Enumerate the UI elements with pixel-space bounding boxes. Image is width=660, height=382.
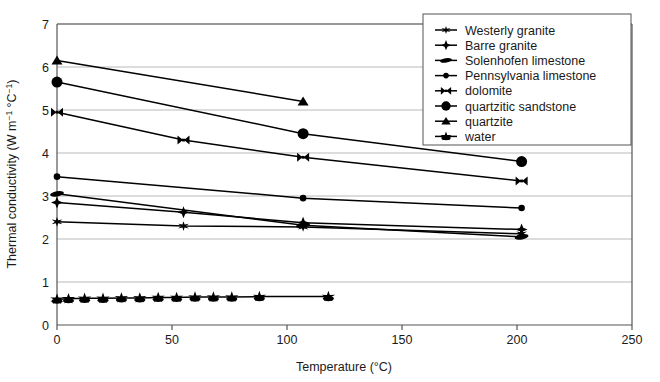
y-axis-title-main: Thermal conductivity (W m bbox=[5, 121, 19, 269]
chart-legend: Westerly graniteBarre graniteSolenhofen … bbox=[423, 14, 631, 145]
y-axis-title-sup-2: −1 bbox=[4, 83, 14, 93]
data-point bbox=[300, 195, 307, 202]
x-axis-title: Temperature (°C) bbox=[296, 360, 392, 374]
data-point bbox=[518, 205, 525, 212]
y-tick-label-0: 0 bbox=[42, 319, 49, 333]
legend-label: quartzitic sandstone bbox=[465, 100, 576, 114]
y-axis-title-mid: °C bbox=[5, 93, 19, 111]
legend-label: Westerly granite bbox=[465, 24, 555, 38]
y-axis-title: Thermal conductivity (W m−1 °C−1) bbox=[4, 79, 19, 268]
legend-marker bbox=[443, 73, 449, 79]
y-tick-label-6: 6 bbox=[42, 61, 49, 75]
x-tick-label-50: 50 bbox=[165, 333, 179, 347]
data-point bbox=[54, 173, 61, 180]
y-tick-label-2: 2 bbox=[42, 233, 49, 247]
legend-label: Solenhofen limestone bbox=[465, 54, 585, 68]
y-tick-label-1: 1 bbox=[42, 276, 49, 290]
y-axis-title-sup-1: −1 bbox=[4, 111, 14, 121]
y-tick-label-3: 3 bbox=[42, 190, 49, 204]
y-tick-label-5: 5 bbox=[42, 104, 49, 118]
thermal-conductivity-line-chart: 01234567 050100150200250 Temperature (°C… bbox=[0, 0, 660, 382]
chart-figure: 01234567 050100150200250 Temperature (°C… bbox=[0, 0, 660, 382]
legend-label: Barre granite bbox=[465, 39, 537, 53]
y-tick-label-4: 4 bbox=[42, 147, 49, 161]
x-tick-label-200: 200 bbox=[507, 333, 528, 347]
x-tick-label-100: 100 bbox=[277, 333, 298, 347]
data-point bbox=[516, 156, 527, 167]
y-axis-title-end: ) bbox=[5, 79, 19, 83]
legend-marker bbox=[441, 101, 450, 110]
data-point bbox=[52, 77, 63, 88]
x-tick-label-150: 150 bbox=[392, 333, 413, 347]
y-tick-label-7: 7 bbox=[42, 18, 49, 32]
x-tick-label-250: 250 bbox=[622, 333, 643, 347]
legend-label: quartzite bbox=[465, 115, 513, 129]
legend-label: Pennsylvania limestone bbox=[465, 69, 596, 83]
x-tick-label-0: 0 bbox=[54, 333, 61, 347]
legend-label: water bbox=[464, 130, 496, 144]
data-point bbox=[298, 128, 309, 139]
legend-label: dolomite bbox=[465, 84, 512, 98]
